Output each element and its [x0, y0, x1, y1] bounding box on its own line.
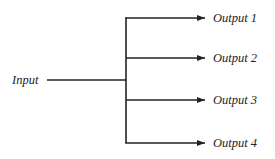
- output-label-3: Output 3: [213, 93, 257, 107]
- output-label-2: Output 2: [213, 51, 257, 65]
- output-label-4: Output 4: [213, 136, 257, 150]
- input-label: Input: [12, 73, 38, 87]
- output-label-1: Output 1: [213, 11, 257, 25]
